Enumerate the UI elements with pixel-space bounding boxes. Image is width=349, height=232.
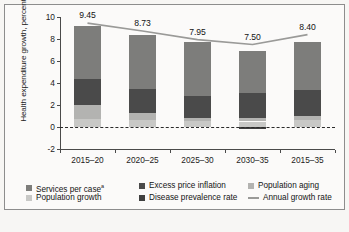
bar-value-label: 9.45: [68, 10, 108, 20]
bar-value-label: 8.40: [288, 22, 328, 32]
legend-item[interactable]: Population aging: [248, 181, 319, 191]
legend-item[interactable]: Population growth: [26, 193, 102, 203]
x-tick-label: 2015–35: [282, 155, 334, 165]
legend-footnote-marker: a: [101, 183, 104, 189]
legend-swatch-icon: [26, 195, 32, 201]
legend-label: Population aging: [258, 181, 319, 191]
legend-item[interactable]: Excess price inflation: [139, 181, 226, 191]
legend-row-2: Population growthDisease prevalence rate…: [26, 193, 336, 205]
legend-swatch-icon: [139, 183, 145, 189]
legend-label: Population growth: [36, 193, 102, 203]
legend-line-icon: [248, 197, 259, 199]
x-tick-label: 2020–25: [117, 155, 169, 165]
bar-value-label: 8.73: [123, 18, 163, 28]
legend-label: Disease prevalence rate: [149, 193, 237, 203]
figure-container: Health expenditure growth, percent 10864…: [0, 0, 349, 232]
x-tick-label: 2030–35: [227, 155, 279, 165]
legend-item[interactable]: Disease prevalence rate: [139, 193, 237, 203]
bar-value-label: 7.50: [233, 32, 273, 42]
legend-label: Annual growth rate: [263, 193, 332, 203]
legend-item[interactable]: Annual growth rate: [248, 193, 332, 203]
legend-label: Excess price inflation: [149, 181, 226, 191]
legend-row-1: Services per caseaExcess price inflation…: [26, 181, 336, 193]
chart-legend: Services per caseaExcess price inflation…: [26, 181, 336, 205]
legend-swatch-icon: [248, 183, 254, 189]
x-tick-label: 2015–20: [62, 155, 114, 165]
legend-swatch-icon: [139, 195, 145, 201]
bar-value-label: 7.95: [178, 27, 218, 37]
x-tick-label: 2025–30: [172, 155, 224, 165]
legend-swatch-icon: [26, 185, 32, 191]
zero-reference-line: [60, 127, 335, 128]
plot-area: Health expenditure growth, percent 10864…: [0, 0, 349, 232]
